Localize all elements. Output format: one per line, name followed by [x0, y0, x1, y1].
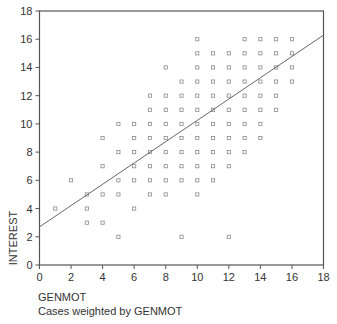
- data-point: [227, 136, 230, 139]
- y-tick-label: 10: [20, 118, 32, 130]
- x-tick-label: 8: [163, 271, 169, 283]
- data-point: [133, 151, 136, 154]
- data-point: [243, 108, 246, 111]
- data-point: [243, 38, 246, 41]
- data-point: [196, 193, 199, 196]
- data-point: [180, 179, 183, 182]
- x-axis-title: GENMOT: [38, 291, 87, 303]
- data-point: [148, 136, 151, 139]
- data-point: [211, 52, 214, 55]
- x-tick-label: 0: [36, 271, 42, 283]
- data-point: [227, 80, 230, 83]
- data-point: [180, 94, 183, 97]
- x-tick-label: 12: [223, 271, 235, 283]
- data-point: [259, 94, 262, 97]
- data-point: [243, 52, 246, 55]
- data-point: [133, 179, 136, 182]
- data-point: [196, 179, 199, 182]
- data-point: [259, 108, 262, 111]
- data-point: [101, 193, 104, 196]
- data-point: [196, 52, 199, 55]
- data-point: [101, 165, 104, 168]
- data-point: [148, 179, 151, 182]
- data-point: [54, 207, 57, 210]
- data-point: [196, 66, 199, 69]
- data-point: [227, 165, 230, 168]
- data-point: [164, 94, 167, 97]
- data-point: [211, 136, 214, 139]
- data-point: [148, 94, 151, 97]
- data-point: [275, 108, 278, 111]
- data-point: [211, 122, 214, 125]
- data-point: [196, 151, 199, 154]
- data-point: [259, 52, 262, 55]
- data-point: [259, 122, 262, 125]
- y-tick-label: 18: [20, 5, 32, 17]
- data-point: [133, 207, 136, 210]
- data-point: [211, 94, 214, 97]
- data-point: [290, 52, 293, 55]
- data-point: [290, 38, 293, 41]
- data-point: [196, 108, 199, 111]
- y-axis-title: INTEREST: [7, 211, 19, 266]
- y-tick-label: 14: [20, 61, 32, 73]
- data-point: [180, 122, 183, 125]
- data-point: [259, 80, 262, 83]
- data-point: [259, 38, 262, 41]
- data-point: [275, 94, 278, 97]
- data-point: [69, 179, 72, 182]
- plot-frame: [40, 11, 324, 265]
- data-point: [180, 136, 183, 139]
- data-point: [180, 151, 183, 154]
- y-tick-label: 4: [26, 203, 32, 215]
- data-point: [211, 66, 214, 69]
- data-point: [164, 165, 167, 168]
- data-point: [164, 179, 167, 182]
- data-point: [164, 136, 167, 139]
- x-tick-label: 16: [286, 271, 298, 283]
- data-point: [196, 165, 199, 168]
- y-tick-label: 2: [26, 231, 32, 243]
- plot-border: [40, 11, 324, 265]
- data-point: [85, 221, 88, 224]
- data-point: [243, 94, 246, 97]
- data-points: [54, 38, 294, 239]
- y-tick-label: 0: [26, 259, 32, 271]
- data-point: [243, 80, 246, 83]
- data-point: [275, 80, 278, 83]
- x-tick-label: 6: [131, 271, 137, 283]
- x-tick-label: 2: [68, 271, 74, 283]
- data-point: [196, 136, 199, 139]
- y-tick-label: 16: [20, 33, 32, 45]
- data-point: [133, 122, 136, 125]
- data-point: [148, 122, 151, 125]
- data-point: [211, 80, 214, 83]
- data-point: [164, 193, 167, 196]
- data-point: [275, 52, 278, 55]
- data-point: [227, 52, 230, 55]
- data-point: [227, 151, 230, 154]
- data-point: [117, 179, 120, 182]
- y-tick-label: 6: [26, 174, 32, 186]
- data-point: [211, 151, 214, 154]
- scatter-chart: 024681012141618 024681012141618 INTEREST…: [0, 0, 337, 324]
- data-point: [117, 151, 120, 154]
- data-point: [148, 193, 151, 196]
- data-point: [180, 165, 183, 168]
- data-point: [259, 136, 262, 139]
- data-point: [117, 235, 120, 238]
- data-point: [243, 136, 246, 139]
- data-point: [211, 179, 214, 182]
- y-axis-ticks: 024681012141618: [20, 5, 39, 271]
- data-point: [243, 151, 246, 154]
- data-point: [243, 122, 246, 125]
- x-tick-label: 18: [317, 271, 329, 283]
- x-axis-ticks: 024681012141618: [36, 265, 329, 283]
- data-point: [196, 94, 199, 97]
- data-point: [290, 80, 293, 83]
- data-point: [196, 38, 199, 41]
- data-point: [227, 122, 230, 125]
- regression-line-group: [40, 35, 324, 227]
- data-point: [101, 136, 104, 139]
- data-point: [148, 165, 151, 168]
